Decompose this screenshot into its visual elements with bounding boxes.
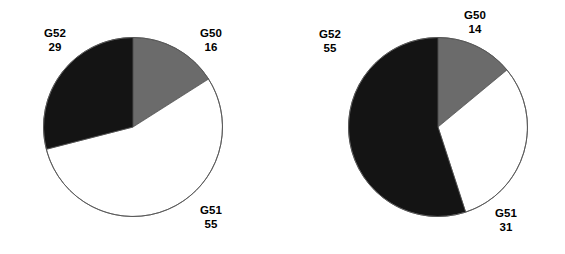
pie-left-label-g51-value: 55 <box>188 217 234 231</box>
pie-left-label-g50-value: 16 <box>188 40 234 54</box>
pie-right-slices <box>349 38 528 217</box>
pie-right-label-g50: G50 14 <box>452 8 498 36</box>
pie-right-label-g52: G52 55 <box>307 27 353 55</box>
pie-left-label-g50-name: G50 <box>188 26 234 40</box>
pie-right-label-g52-name: G52 <box>307 27 353 41</box>
pie-right-label-g51-value: 31 <box>483 220 529 234</box>
pie-left-label-g50: G50 16 <box>188 26 234 54</box>
pie-left-label-g52-value: 29 <box>32 40 78 54</box>
pie-left-label-g51: G51 55 <box>188 203 234 231</box>
pie-left-label-g51-name: G51 <box>188 203 234 217</box>
pie-right-label-g50-value: 14 <box>452 22 498 36</box>
pie-chart-left: G52 29 G50 16 G51 55 <box>0 0 283 254</box>
pie-right-label-g52-value: 55 <box>307 41 353 55</box>
pie-left-slices <box>43 38 222 217</box>
pie-chart-right: G52 55 G50 14 G51 31 <box>283 0 565 254</box>
pie-right-label-g51: G51 31 <box>483 206 529 234</box>
pie-right-label-g50-name: G50 <box>452 8 498 22</box>
pie-left-label-g52: G52 29 <box>32 26 78 54</box>
pie-left-label-g52-name: G52 <box>32 26 78 40</box>
pie-right-label-g51-name: G51 <box>483 206 529 220</box>
pie-chart-figure: G52 29 G50 16 G51 55 G52 55 G50 14 G51 3… <box>0 0 565 254</box>
